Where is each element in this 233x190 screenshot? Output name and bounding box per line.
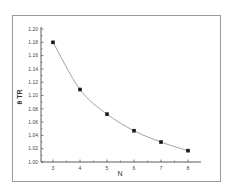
data-point-marker	[159, 140, 163, 144]
x-tick-label: 3	[52, 165, 55, 171]
x-tick-label: 7	[160, 165, 163, 171]
y-tick-label: 1.08	[28, 106, 38, 112]
data-point-marker	[105, 112, 109, 116]
data-point-marker	[186, 149, 190, 153]
x-tick-label: 8	[187, 165, 190, 171]
data-markers	[51, 41, 190, 153]
y-tick-label: 1.04	[28, 132, 38, 138]
data-line	[53, 42, 188, 150]
x-tick-label: 4	[79, 165, 82, 171]
y-tick-label: 1.18	[28, 39, 38, 45]
y-tick-label: 1.12	[28, 79, 38, 85]
y-axis-title: θ TR	[16, 89, 23, 104]
data-point-marker	[78, 88, 82, 92]
y-tick-label: 1.06	[28, 119, 38, 125]
x-tick-label: 5	[106, 165, 109, 171]
y-tick-label: 1.10	[28, 92, 38, 98]
y-tick-label: 1.20	[28, 26, 38, 32]
axes	[41, 27, 201, 162]
y-tick-label: 1.02	[28, 145, 38, 151]
data-point-marker	[51, 41, 55, 45]
x-tick-label: 6	[133, 165, 136, 171]
y-tick-label: 1.00	[28, 159, 38, 165]
x-axis-title: N	[117, 170, 122, 177]
line-chart: 1.001.021.041.061.081.101.121.141.161.18…	[0, 0, 233, 190]
data-point-marker	[132, 129, 136, 133]
y-tick-label: 1.14	[28, 66, 38, 72]
y-tick-label: 1.16	[28, 52, 38, 58]
